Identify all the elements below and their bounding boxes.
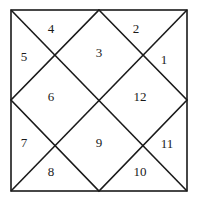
house-4-label: 4 [48, 21, 55, 36]
house-9-label: 9 [96, 135, 103, 150]
house-8-label: 8 [48, 164, 55, 179]
house-3-label: 3 [96, 45, 103, 60]
chart-lines [11, 10, 187, 191]
house-12-label: 12 [134, 89, 147, 104]
house-6-label: 6 [48, 89, 55, 104]
house-10-label: 10 [134, 164, 147, 179]
house-7-label: 7 [21, 135, 28, 150]
house-11-label: 11 [161, 136, 174, 151]
house-2-label: 2 [133, 21, 140, 36]
house-5-label: 5 [21, 49, 28, 64]
house-1-label: 1 [161, 52, 168, 67]
house-chart: 4 5 3 2 1 6 12 7 9 11 8 10 [0, 0, 199, 203]
